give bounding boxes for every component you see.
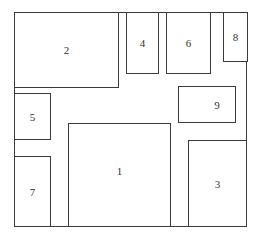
box-label: 8 xyxy=(233,31,239,43)
box-3: 3 xyxy=(188,140,247,227)
box-4: 4 xyxy=(126,12,159,74)
box-6: 6 xyxy=(166,12,211,74)
box-label: 3 xyxy=(215,178,221,190)
box-1: 1 xyxy=(68,123,171,227)
box-label: 2 xyxy=(64,44,70,56)
box-5: 5 xyxy=(14,93,51,140)
box-label: 9 xyxy=(214,99,220,111)
box-label: 7 xyxy=(30,186,36,198)
box-label: 4 xyxy=(140,37,146,49)
box-label: 5 xyxy=(30,111,36,123)
layout-diagram: 123456789 xyxy=(0,0,260,241)
box-label: 6 xyxy=(186,37,192,49)
box-9: 9 xyxy=(178,86,236,123)
box-8: 8 xyxy=(223,12,248,62)
box-7: 7 xyxy=(14,156,51,227)
box-2: 2 xyxy=(14,12,119,88)
box-label: 1 xyxy=(117,165,123,177)
